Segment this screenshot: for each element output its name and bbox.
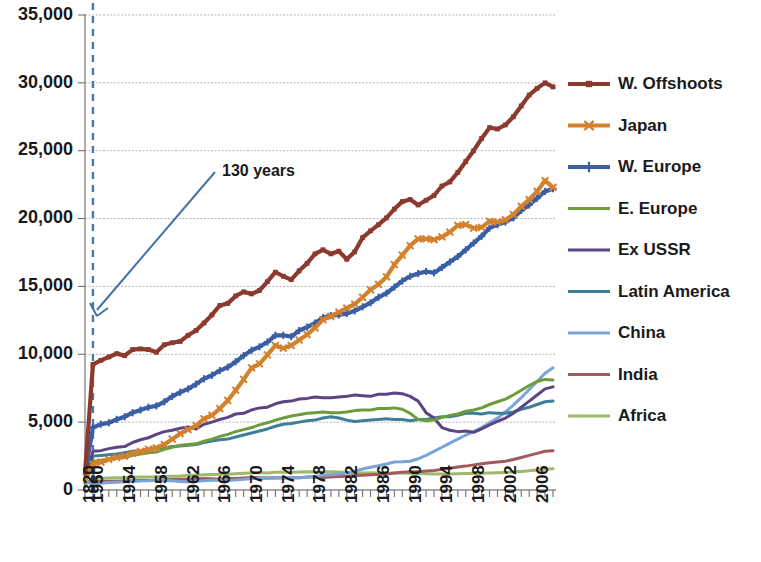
legend-item-china[interactable]: China bbox=[568, 323, 666, 342]
marker-square bbox=[368, 228, 373, 233]
y-tick-label: 10,000 bbox=[18, 343, 73, 363]
legend: W. OffshootsJapanW. EuropeE. EuropeEx US… bbox=[568, 74, 730, 425]
legend-label: India bbox=[618, 365, 658, 384]
marker-square bbox=[273, 270, 278, 275]
x-tick-label: 1994 bbox=[437, 465, 456, 503]
legend-label: China bbox=[618, 323, 666, 342]
chart-container: 130 years 05,00010,00015,00020,00025,000… bbox=[0, 0, 761, 562]
marker-square bbox=[400, 199, 405, 204]
x-tick-label: 1978 bbox=[310, 465, 329, 503]
y-tick-label: 25,000 bbox=[18, 139, 73, 159]
marker-square bbox=[289, 277, 294, 282]
y-axis-tick-labels: 05,00010,00015,00020,00025,00030,00035,0… bbox=[18, 4, 73, 499]
marker-square bbox=[408, 197, 413, 202]
x-tick-label: 1954 bbox=[120, 465, 139, 503]
legend-item-w-europe[interactable]: W. Europe bbox=[568, 157, 701, 176]
marker-square bbox=[519, 104, 524, 109]
marker-square bbox=[384, 215, 389, 220]
annotation-arrow-shaft bbox=[97, 172, 215, 310]
marker-square bbox=[535, 86, 540, 91]
legend-item-e-europe[interactable]: E. Europe bbox=[568, 199, 697, 218]
marker-square bbox=[217, 303, 222, 308]
marker-square bbox=[463, 159, 468, 164]
x-tick-label: 1982 bbox=[342, 465, 361, 503]
marker-square bbox=[471, 148, 476, 153]
x-tick-label: 1970 bbox=[247, 465, 266, 503]
marker-square bbox=[170, 340, 175, 345]
series-lines bbox=[85, 80, 557, 484]
x-tick-label: 1950 bbox=[88, 465, 107, 503]
marker-square bbox=[313, 251, 318, 256]
annotation-text: 130 years bbox=[222, 162, 295, 179]
series-w-europe bbox=[85, 185, 557, 474]
marker-square bbox=[233, 294, 238, 299]
legend-label: E. Europe bbox=[618, 199, 697, 218]
marker-square bbox=[225, 301, 230, 306]
legend-label: Latin America bbox=[618, 282, 730, 301]
legend-item-india[interactable]: India bbox=[568, 365, 658, 384]
marker-square bbox=[210, 313, 215, 318]
marker-square bbox=[162, 342, 167, 347]
y-tick-label: 0 bbox=[63, 479, 73, 499]
marker-square bbox=[447, 180, 452, 185]
x-tick-label: 1958 bbox=[152, 465, 171, 503]
marker-square bbox=[130, 347, 135, 352]
x-tick-label: 1974 bbox=[279, 465, 298, 503]
marker-square bbox=[360, 235, 365, 240]
marker-square bbox=[527, 93, 532, 98]
marker-square bbox=[495, 127, 500, 132]
marker-square bbox=[455, 170, 460, 175]
marker-square bbox=[146, 347, 151, 352]
y-tick-label: 5,000 bbox=[28, 411, 73, 431]
marker-square bbox=[392, 207, 397, 212]
marker-square bbox=[122, 353, 127, 358]
marker-square bbox=[416, 203, 421, 208]
marker-square bbox=[321, 247, 326, 252]
marker-square bbox=[297, 268, 302, 273]
x-tick-label: 2006 bbox=[533, 465, 552, 503]
legend-item-ex-ussr[interactable]: Ex USSR bbox=[568, 240, 691, 259]
marker-square bbox=[257, 288, 262, 293]
marker-square bbox=[551, 85, 556, 90]
marker-square bbox=[186, 333, 191, 338]
x-tick-label: 1966 bbox=[215, 465, 234, 503]
marker-square bbox=[424, 198, 429, 203]
legend-item-africa[interactable]: Africa bbox=[568, 406, 667, 425]
marker-square bbox=[138, 346, 143, 351]
marker-square bbox=[178, 339, 183, 344]
legend-item-w-offshoots[interactable]: W. Offshoots bbox=[568, 74, 723, 93]
marker-square bbox=[344, 257, 349, 262]
legend-label: Ex USSR bbox=[618, 240, 691, 259]
y-tick-label: 35,000 bbox=[18, 4, 73, 24]
marker-square bbox=[281, 274, 286, 279]
marker-square bbox=[91, 362, 96, 367]
marker-square bbox=[241, 289, 246, 294]
marker-square bbox=[249, 291, 254, 296]
marker-square bbox=[98, 358, 103, 363]
marker-square bbox=[106, 355, 111, 360]
marker-square bbox=[511, 114, 516, 119]
marker-square bbox=[305, 261, 310, 266]
marker-square bbox=[479, 136, 484, 141]
annotation-130-years: 130 years bbox=[90, 162, 295, 316]
legend-item-latin-america[interactable]: Latin America bbox=[568, 282, 730, 301]
gridlines bbox=[85, 15, 556, 422]
legend-item-japan[interactable]: Japan bbox=[568, 116, 667, 135]
marker-square bbox=[114, 351, 119, 356]
marker-square bbox=[352, 249, 357, 254]
marker-square bbox=[503, 123, 508, 128]
x-axis-tick-labels: 1820195019541958196219661970197419781982… bbox=[80, 465, 551, 503]
marker-square bbox=[487, 125, 492, 130]
legend-label: W. Offshoots bbox=[618, 74, 723, 93]
marker-square bbox=[154, 350, 159, 355]
x-tick-label: 2002 bbox=[501, 465, 520, 503]
x-tick-label: 1998 bbox=[469, 465, 488, 503]
legend-label: Africa bbox=[618, 406, 667, 425]
legend-marker-square bbox=[586, 81, 592, 87]
marker-square bbox=[440, 184, 445, 189]
marker-square bbox=[432, 193, 437, 198]
legend-label: Japan bbox=[618, 116, 667, 135]
x-tick-label: 1962 bbox=[184, 465, 203, 503]
y-tick-label: 15,000 bbox=[18, 275, 73, 295]
x-tick-label: 1986 bbox=[374, 465, 393, 503]
